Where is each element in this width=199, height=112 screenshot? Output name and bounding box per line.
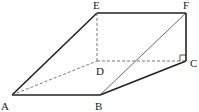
edge-ae xyxy=(12,13,97,95)
label-b: B xyxy=(95,100,102,112)
label-f: F xyxy=(183,0,189,11)
right-angle-marker xyxy=(180,55,186,61)
edge-ad xyxy=(12,61,97,95)
label-a: A xyxy=(1,100,9,112)
prism-diagram: A B C D E F xyxy=(0,0,199,112)
edge-bf xyxy=(100,13,186,95)
edge-bc xyxy=(100,61,186,95)
label-d: D xyxy=(96,65,104,77)
label-e: E xyxy=(93,0,100,11)
label-c: C xyxy=(190,57,197,69)
